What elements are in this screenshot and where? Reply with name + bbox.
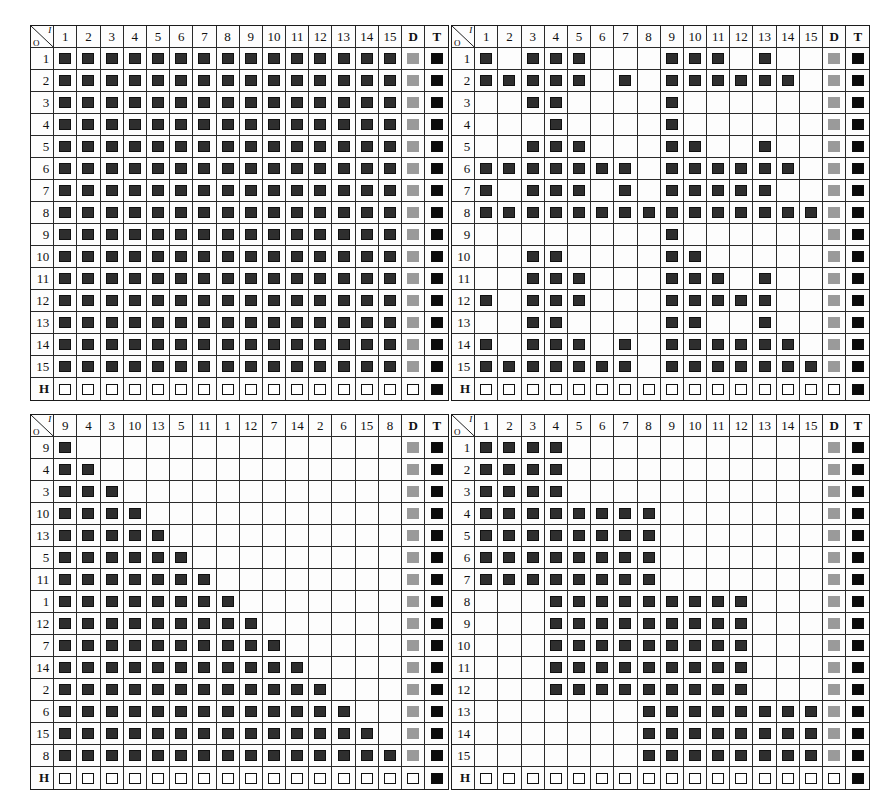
column-header-7: 7: [614, 26, 637, 48]
matrix-cell: [475, 70, 498, 92]
cell-filled: [527, 574, 539, 585]
cell-filled: [268, 273, 280, 284]
cell-hollow: [59, 384, 71, 395]
matrix-cell: [684, 723, 707, 745]
cell-filled: [175, 728, 187, 739]
matrix-cell: [684, 48, 707, 70]
cell-diagonal: [407, 163, 419, 174]
cell-filled: [82, 552, 94, 563]
matrix-cell: [379, 202, 402, 224]
matrix-cell: [545, 268, 568, 290]
matrix-cell: [101, 356, 124, 378]
matrix-cell: [846, 92, 869, 114]
matrix-cell: [498, 202, 521, 224]
matrix-cell: [730, 114, 753, 136]
matrix-cell: [684, 459, 707, 481]
matrix-cell: [124, 745, 147, 767]
matrix-cell: [240, 679, 263, 701]
matrix-cell: [263, 180, 286, 202]
matrix-cell: [193, 92, 216, 114]
cell-filled: [527, 361, 539, 372]
cell-diagonal: [407, 640, 419, 651]
matrix-cell: [54, 701, 77, 723]
cell-total: [431, 618, 443, 629]
matrix-cell: [101, 334, 124, 356]
cell-filled: [338, 97, 350, 108]
matrix-cell: [638, 613, 661, 635]
cell-diagonal: [828, 442, 840, 453]
matrix-cell: [356, 525, 379, 547]
cell-filled: [384, 317, 396, 328]
matrix-cell: [356, 136, 379, 158]
matrix-cell: [217, 569, 240, 591]
matrix-cell: [707, 224, 730, 246]
cell-filled: [222, 75, 234, 86]
matrix-cell: [730, 547, 753, 569]
matrix-cell: [846, 114, 869, 136]
matrix-cell: [379, 48, 402, 70]
matrix-cell: [356, 767, 379, 789]
matrix-cell: [402, 48, 425, 70]
cell-filled: [619, 684, 631, 695]
matrix-cell: [286, 268, 309, 290]
matrix-cell: [54, 246, 77, 268]
matrix-cell: [545, 246, 568, 268]
matrix-cell: [568, 679, 591, 701]
matrix-cell: [309, 613, 332, 635]
matrix-cell: [263, 547, 286, 569]
matrix-cell: [77, 723, 100, 745]
cell-filled: [573, 141, 585, 152]
row-header-2: 2: [452, 70, 475, 92]
cell-hollow: [175, 384, 187, 395]
cell-filled: [198, 97, 210, 108]
cell-hollow: [152, 773, 164, 784]
matrix-cell: [332, 547, 355, 569]
cell-filled: [689, 662, 701, 673]
column-header-13: 13: [332, 26, 355, 48]
matrix-cell: [286, 180, 309, 202]
matrix-cell: [638, 136, 661, 158]
matrix-cell: [475, 569, 498, 591]
cell-filled: [619, 574, 631, 585]
row-header-9: 9: [452, 613, 475, 635]
matrix-cell: [823, 334, 846, 356]
matrix-cell: [545, 202, 568, 224]
matrix-cell: [217, 437, 240, 459]
cell-filled: [666, 295, 678, 306]
cell-diagonal: [828, 552, 840, 563]
matrix-cell: [286, 701, 309, 723]
cell-filled: [222, 361, 234, 372]
row-header-13: 13: [452, 312, 475, 334]
cell-filled: [550, 596, 562, 607]
matrix-cell: [614, 158, 637, 180]
cell-filled: [245, 53, 257, 64]
matrix-cell: [591, 437, 614, 459]
matrix-cell: [332, 701, 355, 723]
matrix-cell: [101, 503, 124, 525]
matrix-cell: [54, 459, 77, 481]
cell-hollow: [619, 384, 631, 395]
matrix-cell: [614, 657, 637, 679]
matrix-cell: [356, 246, 379, 268]
cell-filled: [82, 317, 94, 328]
cell-filled: [384, 97, 396, 108]
matrix-cell: [309, 268, 332, 290]
cell-diagonal: [828, 486, 840, 497]
cell-filled: [245, 251, 257, 262]
cell-hollow: [527, 773, 539, 784]
cell-filled: [152, 574, 164, 585]
matrix-cell: [124, 48, 147, 70]
cell-hollow: [805, 384, 817, 395]
matrix-cell: [263, 701, 286, 723]
matrix-cell: [356, 202, 379, 224]
matrix-cell: [170, 180, 193, 202]
cell-filled: [550, 486, 562, 497]
matrix-cell: [475, 767, 498, 789]
matrix-cell: [777, 180, 800, 202]
row-header-14: 14: [31, 657, 54, 679]
matrix-cell: [147, 613, 170, 635]
matrix-cell: [545, 591, 568, 613]
matrix-cell: [730, 569, 753, 591]
cell-filled: [759, 185, 771, 196]
matrix-cell: [661, 290, 684, 312]
